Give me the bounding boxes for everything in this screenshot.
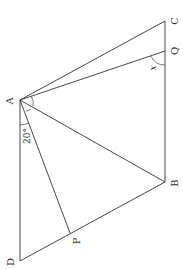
label-a: A: [4, 97, 15, 106]
label-b: B: [169, 179, 180, 186]
segment-bd: [20, 182, 165, 261]
angle-label-20: 20°: [22, 128, 32, 144]
label-d: D: [5, 258, 16, 266]
segment-ap: [20, 100, 70, 233]
label-p: P: [71, 237, 82, 244]
segment-ab: [20, 100, 165, 182]
angle-arc-aqb: [151, 56, 165, 65]
segment-aq: [20, 51, 165, 100]
label-q: Q: [169, 47, 180, 55]
segment-ac: [20, 21, 165, 100]
angle-label-x: x: [148, 65, 158, 70]
angle-arc-a-lower: [26, 109, 31, 111]
angle-arc-a-upper: [31, 96, 33, 106]
geometry-figure: A B C D P Q 20° x: [0, 0, 183, 269]
label-c: C: [169, 17, 180, 25]
angle-arc-dap: [20, 123, 29, 125]
